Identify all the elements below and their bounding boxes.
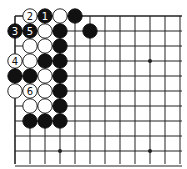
black-stone (53, 39, 67, 53)
black-stone (53, 114, 67, 128)
black-stone (53, 99, 67, 113)
black-stone: 1 (38, 9, 52, 23)
star-point (58, 149, 62, 153)
move-number-label: 4 (12, 56, 18, 67)
white-stone (38, 84, 52, 98)
go-board: 213546 (0, 0, 187, 169)
black-stone: 3 (8, 24, 22, 38)
white-stone (23, 39, 37, 53)
white-stone (38, 69, 52, 83)
move-number-label: 1 (42, 11, 48, 22)
move-number-label: 2 (27, 11, 33, 22)
black-stone (23, 69, 37, 83)
black-stone (53, 84, 67, 98)
white-stone (38, 39, 52, 53)
star-point (148, 149, 152, 153)
white-stone: 6 (23, 84, 37, 98)
move-number-label: 6 (27, 86, 33, 97)
black-stone: 5 (23, 24, 37, 38)
black-stone (53, 54, 67, 68)
black-stone (53, 24, 67, 38)
white-stone (23, 54, 37, 68)
black-stone (83, 24, 97, 38)
white-stone (8, 84, 22, 98)
black-stone (68, 9, 82, 23)
black-stone (38, 54, 52, 68)
black-stone (38, 114, 52, 128)
stones: 213546 (8, 9, 97, 128)
white-stone (53, 9, 67, 23)
star-point (148, 59, 152, 63)
white-stone (38, 24, 52, 38)
white-stone: 4 (8, 54, 22, 68)
black-stone (53, 69, 67, 83)
move-number-label: 3 (12, 26, 18, 37)
white-stone (38, 99, 52, 113)
black-stone (23, 114, 37, 128)
white-stone: 2 (23, 9, 37, 23)
white-stone (23, 99, 37, 113)
move-number-label: 5 (27, 26, 33, 37)
black-stone (8, 69, 22, 83)
